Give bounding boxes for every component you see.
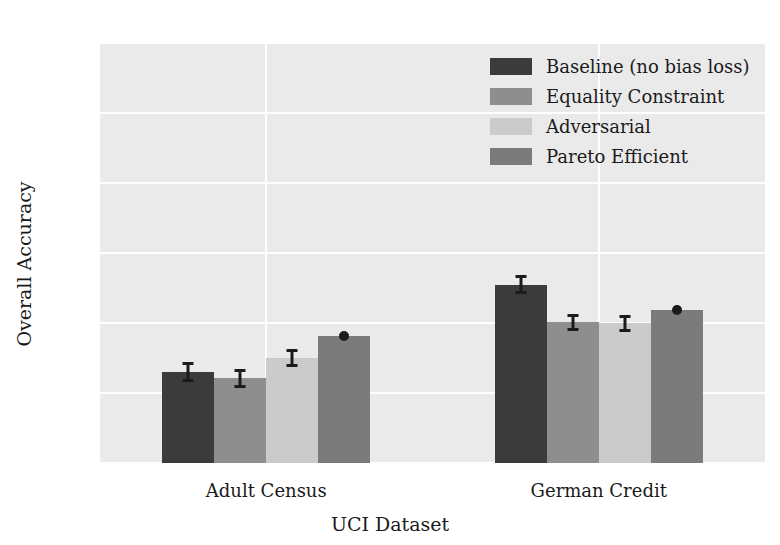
- legend-swatch: [490, 118, 532, 135]
- legend: Baseline (no bias loss)Equality Constrai…: [482, 45, 760, 179]
- legend-swatch: [490, 58, 532, 75]
- legend-label: Pareto Efficient: [546, 146, 688, 167]
- legend-item: Equality Constraint: [490, 81, 750, 111]
- legend-label: Adversarial: [546, 116, 651, 137]
- x-tick-label: Adult Census: [206, 480, 327, 501]
- x-tick-label: German Credit: [531, 480, 667, 501]
- x-axis-title: UCI Dataset: [0, 513, 780, 535]
- legend-item: Baseline (no bias loss): [490, 51, 750, 81]
- legend-label: Baseline (no bias loss): [546, 56, 750, 77]
- legend-swatch: [490, 88, 532, 105]
- bar-chart-figure: 0.50.60.70.80.91.01.1 Overall Accuracy U…: [0, 0, 780, 545]
- legend-swatch: [490, 148, 532, 165]
- legend-item: Adversarial: [490, 111, 750, 141]
- legend-label: Equality Constraint: [546, 86, 724, 107]
- legend-item: Pareto Efficient: [490, 141, 750, 171]
- y-axis-title: Overall Accuracy: [13, 134, 35, 394]
